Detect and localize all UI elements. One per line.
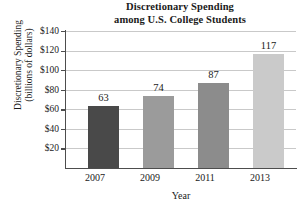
chart-title-line-1: Discretionary Spending xyxy=(60,1,300,14)
chart-title-line-2: among U.S. College Students xyxy=(60,14,300,27)
bar-2009 xyxy=(143,96,174,168)
x-tick-label-2009: 2009 xyxy=(128,172,172,183)
bar-value-2011: 87 xyxy=(198,70,229,81)
bar-2013 xyxy=(253,54,284,169)
bar-value-2007: 63 xyxy=(88,93,119,104)
gridline-140 xyxy=(66,31,296,32)
bar-2007 xyxy=(88,106,119,168)
y-tick-label-40: $40 xyxy=(17,125,59,135)
bar-chart-figure: Discretionary Spending among U.S. Colleg… xyxy=(0,0,308,209)
y-tick-label-60: $60 xyxy=(17,105,59,115)
x-axis-line xyxy=(65,168,297,169)
y-tick-label-120: $120 xyxy=(17,46,59,56)
x-tick-label-2007: 2007 xyxy=(73,172,117,183)
x-tick-label-2011: 2011 xyxy=(183,172,227,183)
y-tick-label-80: $80 xyxy=(17,86,59,96)
bar-value-2009: 74 xyxy=(143,83,174,94)
plot-area: 63 74 87 117 xyxy=(66,31,296,168)
bar-2011 xyxy=(198,83,229,168)
y-tick-label-140: $140 xyxy=(17,27,59,37)
y-tick-label-100: $100 xyxy=(17,66,59,76)
x-tick-label-2013: 2013 xyxy=(238,172,282,183)
x-axis-title: Year xyxy=(66,190,296,201)
y-tick-label-20: $20 xyxy=(17,144,59,154)
chart-title: Discretionary Spending among U.S. Colleg… xyxy=(60,1,300,26)
bar-value-2013: 117 xyxy=(253,41,284,52)
